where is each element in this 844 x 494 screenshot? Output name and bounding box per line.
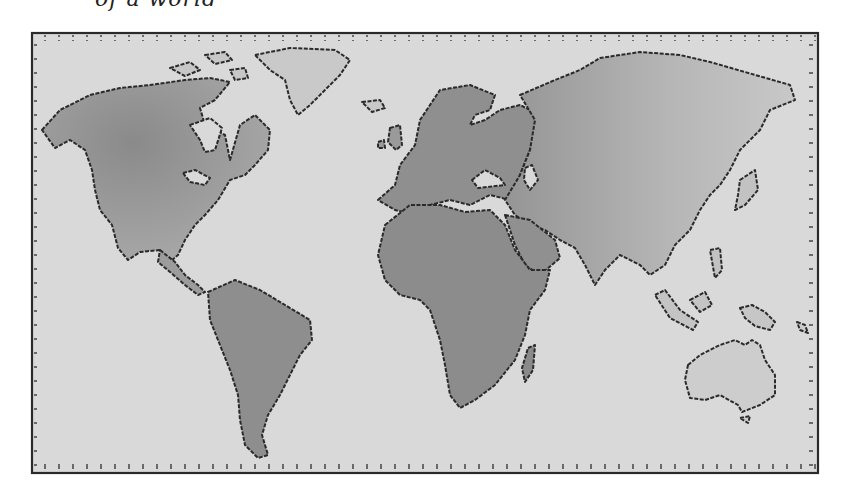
world-map [0, 0, 844, 494]
